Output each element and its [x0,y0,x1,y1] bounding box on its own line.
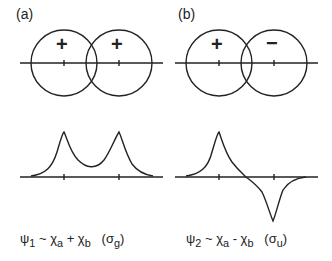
panel-label-b: (b) [178,6,195,22]
sign-a-right: + [111,33,123,56]
caption-b: ψ2 ~ χa - χb (σu) [186,231,287,249]
wavefunction-bonding [31,132,153,176]
panel-label-a: (a) [16,6,33,22]
orbital-diagram [0,0,332,261]
sign-a-left: + [56,33,68,56]
sign-b-right: − [266,32,278,55]
sign-b-left: + [211,33,223,56]
caption-a: ψ1 ~ χa + χb (σg) [20,231,124,249]
